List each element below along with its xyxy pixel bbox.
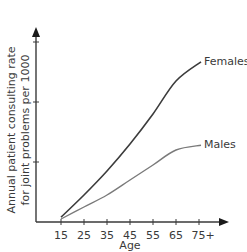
y-axis-title-line-1: Annual patient consulting rate [5,46,18,213]
series-labels: FemalesMales [204,55,247,151]
y-axis-title: Annual patient consulting rate for joint… [5,46,32,213]
x-tick-label: 15 [54,229,68,242]
series-line-females [61,62,201,217]
series-label-females: Females [204,55,247,68]
x-tick-label: 65 [169,229,183,242]
x-tick-label: 75+ [191,229,214,242]
x-tick-label: 35 [100,229,114,242]
line-chart: 15253545556575+ FemalesMales Age Annual … [0,0,247,252]
series-label-males: Males [204,138,236,151]
x-axis-title: Age [119,239,141,252]
y-axis-title-line-2: for joint problems per 1000 [19,55,32,206]
series-line-males [61,145,201,219]
series-lines [61,62,201,219]
x-tick-label: 25 [77,229,91,242]
x-tick-label: 55 [146,229,160,242]
